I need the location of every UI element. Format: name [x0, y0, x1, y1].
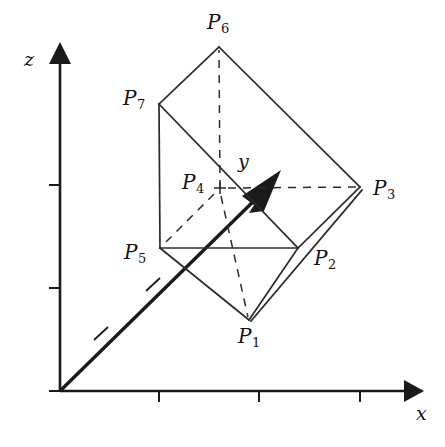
- x-axis-arrowhead: [404, 380, 424, 402]
- vertex-label-p7-letter: P: [123, 86, 136, 110]
- vertex-label-p5-letter: P: [124, 240, 137, 264]
- vertex-label-p2: P2: [314, 248, 336, 271]
- vertex-label-p6-letter: P: [207, 10, 220, 34]
- vertex-label-p2-letter: P: [314, 246, 327, 270]
- z-axis-arrowhead: [49, 42, 71, 64]
- x-axis-label: x: [416, 404, 427, 423]
- vertex-label-p7-subscript: 7: [137, 97, 145, 112]
- vertex-label-p4-letter: P: [182, 170, 195, 194]
- edge-p7-p5: [159, 104, 160, 248]
- edge-p4-p5: [162, 194, 214, 246]
- vertex-label-p3: P3: [373, 178, 395, 201]
- y-axis-line: [60, 192, 263, 391]
- vertex-label-p6: P6: [207, 12, 229, 35]
- edge-p1-p2: [249, 248, 298, 320]
- edge-p2-p3: [298, 187, 360, 248]
- edge-p7-p6: [159, 47, 219, 104]
- vertex-label-p6-subscript: 6: [221, 21, 229, 36]
- axes-group: [49, 42, 424, 402]
- vertex-label-p2-subscript: 2: [328, 257, 336, 272]
- vertex-label-p1: P1: [238, 326, 260, 349]
- vertex-label-p4-subscript: 4: [196, 181, 204, 196]
- edge-p4-p3: [228, 187, 358, 188]
- vertex-label-p5-subscript: 5: [138, 251, 146, 266]
- geometry-figure: z x y P1 P2 P3 P4 P5 P6 P7: [0, 0, 445, 447]
- edge-p1-p3: [251, 190, 362, 321]
- vertex-label-p1-letter: P: [238, 324, 251, 348]
- vertex-label-p4: P4: [182, 172, 204, 195]
- vertex-label-p5: P5: [124, 242, 146, 265]
- vertex-label-p3-letter: P: [373, 176, 386, 200]
- vertex-label-p1-subscript: 1: [252, 335, 260, 350]
- vertex-label-p3-subscript: 3: [387, 187, 395, 202]
- y-axis-label: y: [238, 152, 249, 171]
- z-axis-label: z: [24, 50, 34, 69]
- vertex-label-p7: P7: [123, 88, 145, 111]
- p4-cross-marker: [214, 182, 226, 194]
- y-axis-tick: [94, 327, 108, 340]
- y-axis-tick: [146, 278, 160, 291]
- diagram-canvas: [0, 0, 445, 447]
- edge-p4-p1: [221, 196, 248, 317]
